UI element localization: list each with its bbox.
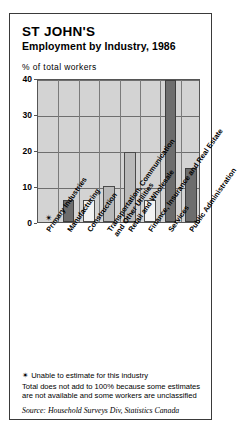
footnote-total: Total does not add to 100% because some … <box>22 382 204 401</box>
footnote-1-text: Unable to estimate for this industry <box>31 371 148 380</box>
chart-card: ST JOHN'S Employment by Industry, 1986 %… <box>9 13 212 420</box>
source-line: Source: Household Surveys Div, Statistic… <box>22 406 204 415</box>
category-labels: Primary IndustriesManufacturingConstruct… <box>10 14 213 421</box>
footnotes: ✴ Unable to estimate for this industry T… <box>22 371 204 415</box>
asterisk-icon: ✴ <box>22 371 29 380</box>
footnote-unable-estimate: ✴ Unable to estimate for this industry <box>22 371 204 380</box>
